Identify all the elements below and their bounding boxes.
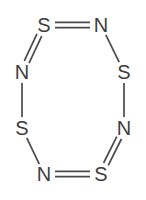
bond-n-left-upper--s-top-left-stroke-2 (29, 36, 42, 63)
bond-layer (22, 22, 124, 176)
atom-label-n-left-upper: N (15, 61, 29, 83)
bond-n-top-right--s-right-upper-stroke-1 (106, 35, 119, 62)
bond-n-top-right--s-right-upper (106, 35, 119, 62)
atom-label-s-right-upper: S (117, 61, 130, 83)
atom-label-s-left-lower: S (15, 117, 28, 139)
bond-n-left-upper--s-top-left (24, 34, 41, 63)
atom-label-n-top-right: N (94, 14, 108, 36)
atom-label-n-right-lower: N (117, 117, 131, 139)
bond-n-right-lower--s-bottom-right-stroke-2 (104, 137, 117, 163)
structure-diagram: SNSNSNSN (0, 0, 146, 200)
atom-label-n-bottom-left: N (37, 163, 51, 185)
bond-s-top-left--n-top-right (55, 22, 90, 27)
bond-n-bottom-left--s-left-lower-stroke-1 (27, 138, 40, 164)
atom-layer: SNSNSNSN (15, 14, 131, 185)
bond-n-right-lower--s-bottom-right (104, 137, 122, 166)
atom-label-s-bottom-right: S (94, 163, 107, 185)
bond-s-bottom-right--n-bottom-left (55, 171, 90, 176)
molecule-figure: SNSNSNSN (0, 0, 146, 200)
bond-n-left-upper--s-top-left-stroke-1 (24, 34, 37, 61)
atom-label-s-top-left: S (37, 14, 50, 36)
bond-n-bottom-left--s-left-lower (27, 138, 40, 164)
bond-n-right-lower--s-bottom-right-stroke-1 (108, 139, 121, 165)
